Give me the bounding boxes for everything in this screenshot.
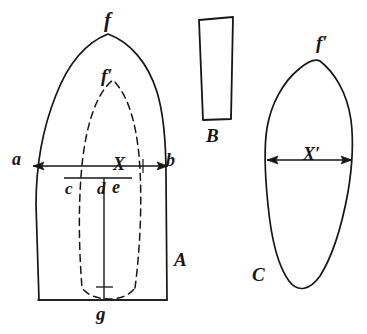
figure-page: { "figure": { "title": "Hand-drawn compa… bbox=[0, 0, 367, 334]
label-g: g bbox=[96, 304, 106, 323]
label-f-prime-c: f′ bbox=[316, 33, 328, 52]
label-x-prime: X′ bbox=[303, 145, 320, 163]
leaf-outline-path-c bbox=[265, 60, 352, 288]
label-f-prime: f′ bbox=[101, 66, 113, 85]
label-panel-c: C bbox=[252, 265, 265, 284]
label-panel-a: A bbox=[174, 250, 187, 269]
label-a: a bbox=[12, 150, 21, 168]
label-panel-b: B bbox=[206, 126, 219, 145]
label-d: d bbox=[97, 180, 106, 197]
label-e: e bbox=[112, 178, 120, 196]
dashed-inner-curve-path-a bbox=[79, 80, 140, 299]
figure-c-group bbox=[265, 60, 352, 288]
label-x: X bbox=[113, 155, 125, 173]
diagram-canvas bbox=[0, 0, 367, 334]
tapered-quad-path-b bbox=[199, 17, 233, 120]
label-c: c bbox=[65, 180, 73, 197]
figure-b-group bbox=[199, 17, 233, 120]
label-f: f bbox=[104, 10, 111, 31]
label-b: b bbox=[166, 151, 175, 169]
